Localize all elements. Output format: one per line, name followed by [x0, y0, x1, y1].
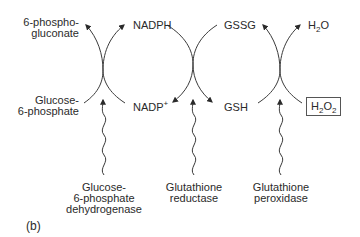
- label-glucose-6-phosphate-line2: 6-phosphate: [0, 106, 79, 117]
- wavy-line-gr: [192, 100, 195, 175]
- h2o2-sub2: 2: [332, 106, 336, 115]
- h2o2-o: O: [323, 100, 332, 112]
- figure-label: (b): [26, 221, 41, 232]
- label-nadp-plus: NADP+: [133, 102, 168, 113]
- label-h2o: H2O: [308, 20, 329, 31]
- enzyme-g6pd-line3: dehydrogenase: [66, 204, 142, 215]
- label-h2o2-box: H2O2: [306, 97, 341, 116]
- arc-nadph-to-nadp: [167, 25, 193, 102]
- wavy-line-gpx: [279, 100, 282, 175]
- h2o-o: O: [320, 19, 329, 31]
- arc-gsh-to-gssg: [258, 25, 280, 103]
- label-gsh: GSH: [224, 102, 248, 113]
- arc-nadp-to-nadph: [103, 25, 125, 103]
- arc-h2o2-to-h2o: [280, 25, 302, 103]
- arc-glucose6p-to-6pg: [84, 25, 103, 103]
- arc-gssg-to-gsh: [193, 25, 217, 102]
- label-6-phosphogluconate-line2: gluconate: [0, 28, 79, 39]
- label-gssg: GSSG: [224, 20, 256, 31]
- enzyme-gr-line2: reductase: [170, 193, 218, 204]
- nadp-charge: +: [164, 99, 169, 108]
- wavy-line-g6pd: [102, 100, 105, 175]
- enzyme-gpx-line2: peroxidase: [254, 193, 308, 204]
- nadp-base: NADP: [133, 101, 164, 113]
- h2o-h: H: [308, 19, 316, 31]
- label-nadph: NADPH: [133, 20, 172, 31]
- h2o2-h: H: [311, 100, 319, 112]
